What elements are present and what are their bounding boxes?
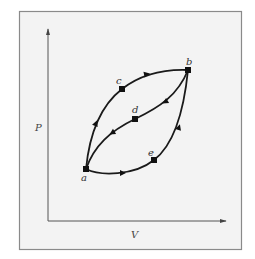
label-d: d <box>132 104 138 115</box>
point-d <box>132 116 138 122</box>
pv-diagram: P V a b c d e <box>0 0 255 259</box>
point-b <box>185 67 191 73</box>
diagram-frame <box>20 12 242 250</box>
label-e: e <box>148 147 154 158</box>
label-b: b <box>186 56 192 67</box>
y-axis-label: P <box>34 122 42 133</box>
label-a: a <box>81 172 87 183</box>
label-c: c <box>116 75 122 86</box>
point-c <box>119 86 125 92</box>
